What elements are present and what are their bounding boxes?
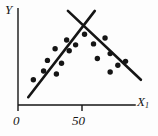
data-point bbox=[107, 51, 112, 56]
data-point bbox=[73, 42, 78, 47]
x-axis-label-subscript: 1 bbox=[145, 101, 149, 110]
data-point bbox=[95, 56, 100, 61]
x-tick-label-0: 0 bbox=[13, 114, 20, 127]
descending-fit-line bbox=[68, 11, 141, 80]
data-point bbox=[82, 31, 87, 36]
data-point bbox=[41, 68, 46, 73]
scatter-plot-figure: Y X1 0 50 bbox=[0, 0, 158, 136]
data-point bbox=[107, 69, 112, 74]
y-axis-label: Y bbox=[5, 3, 12, 16]
data-point bbox=[52, 46, 57, 51]
data-point bbox=[64, 37, 69, 42]
data-point bbox=[54, 71, 59, 76]
x-tick-label-50: 50 bbox=[72, 114, 85, 127]
data-point bbox=[59, 61, 64, 66]
data-point bbox=[67, 48, 72, 53]
data-point bbox=[102, 35, 107, 40]
data-point bbox=[123, 59, 128, 64]
data-point bbox=[31, 77, 36, 82]
x-axis-label-base: X bbox=[137, 94, 145, 109]
x-axis-label: X1 bbox=[137, 95, 149, 110]
ascending-fit-line bbox=[28, 11, 95, 97]
data-point bbox=[91, 41, 96, 46]
data-point bbox=[115, 63, 120, 68]
data-point bbox=[45, 58, 50, 63]
